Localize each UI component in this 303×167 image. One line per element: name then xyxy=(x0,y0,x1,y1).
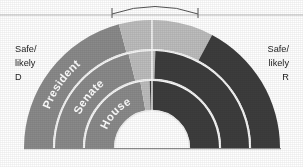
right-annotation-safe-r: Safe/ likely R xyxy=(268,44,290,82)
right-annotation-line2: likely xyxy=(269,58,290,68)
semicircular-fan-chart: President Senate House Safe/ likely D Sa… xyxy=(0,0,303,167)
bracket-arc xyxy=(112,7,198,15)
right-annotation-line1: Safe/ xyxy=(268,44,290,54)
left-annotation-line1: Safe/ xyxy=(15,44,37,54)
right-annotation-line3: R xyxy=(282,72,289,82)
fan-chart-root: President Senate House Safe/ likely D Sa… xyxy=(0,0,303,167)
left-annotation-safe-d: Safe/ likely D xyxy=(15,44,37,82)
tossup-bracket xyxy=(112,7,198,19)
left-annotation-line3: D xyxy=(15,72,22,82)
left-annotation-line2: likely xyxy=(15,58,36,68)
